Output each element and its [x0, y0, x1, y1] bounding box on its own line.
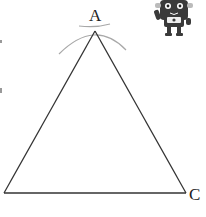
vertex-label-C: C [189, 185, 200, 204]
left-edge-mark-1 [0, 40, 2, 43]
robot-mascot-icon [153, 0, 193, 36]
vertex-label-A: A [89, 6, 102, 25]
side-AB [4, 31, 95, 193]
geometry-diagram: A C [0, 0, 206, 217]
construction-arc-left [59, 35, 126, 54]
triangle-construction: A C [0, 0, 206, 217]
left-edge-mark-2 [0, 88, 2, 93]
side-AC [95, 31, 186, 193]
